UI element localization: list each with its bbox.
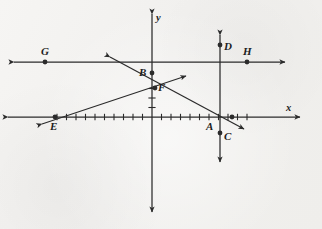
point-marker-c <box>218 131 223 136</box>
point-marker-d <box>218 43 223 48</box>
diagram-canvas: x y A B C D E F G H <box>0 0 322 229</box>
line-through-B-descending-right <box>110 57 244 129</box>
point-label-d: D <box>224 41 232 52</box>
geometry-figure <box>0 0 322 229</box>
point-label-e: E <box>50 121 57 132</box>
point-label-a: A <box>206 121 213 132</box>
point-marker-h <box>245 60 250 65</box>
point-label-h: H <box>243 46 252 57</box>
point-label-f: F <box>158 82 165 93</box>
point-label-b: B <box>139 67 146 78</box>
y-axis-label: y <box>156 13 161 24</box>
point-marker-b <box>150 71 155 76</box>
point-label-g: G <box>41 46 49 57</box>
point-marker-g <box>43 60 48 65</box>
x-axis-label: x <box>286 103 291 114</box>
point-marker-f <box>153 86 158 91</box>
point-label-c: C <box>224 131 231 142</box>
point-marker-i <box>230 115 235 120</box>
point-marker-e <box>53 115 58 120</box>
